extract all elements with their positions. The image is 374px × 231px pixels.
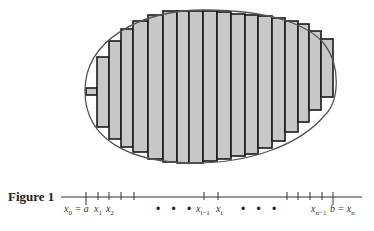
- partition-label-xim1: xi−1: [196, 203, 210, 217]
- partition-label-x1: x1: [94, 203, 102, 217]
- rectangle-3: [121, 29, 133, 147]
- rectangle-16: [298, 24, 309, 122]
- partition-label-xi: xi: [216, 203, 222, 217]
- rectangle-14: [272, 18, 285, 141]
- riemann-sum-figure: [0, 0, 374, 231]
- rectangle-15: [285, 21, 298, 132]
- approximating-rectangles: [86, 11, 333, 163]
- rectangle-13: [258, 16, 272, 148]
- ellipsis-dots: • • •: [156, 202, 195, 216]
- rectangle-12: [245, 15, 258, 154]
- rectangle-7: [177, 11, 189, 163]
- rectangle-4: [133, 21, 148, 152]
- rectangle-5: [148, 15, 163, 159]
- rectangle-0: [86, 88, 97, 95]
- partition-label-x0: x0 = a: [64, 203, 89, 217]
- partition-label-xnm1: xn−1: [311, 203, 326, 217]
- rectangle-8: [189, 11, 203, 163]
- rectangle-11: [231, 14, 245, 156]
- rectangle-17: [309, 31, 321, 110]
- partition-label-x2: x2: [106, 203, 114, 217]
- rectangle-9: [203, 11, 217, 161]
- rectangle-2: [109, 41, 121, 139]
- rectangle-6: [163, 11, 177, 162]
- figure-caption: Figure 1: [8, 189, 54, 205]
- partition-label-bxn: b = xn: [330, 203, 355, 217]
- rectangle-10: [217, 12, 231, 159]
- rectangle-1: [97, 57, 109, 127]
- ellipsis-dots: • • •: [241, 202, 280, 216]
